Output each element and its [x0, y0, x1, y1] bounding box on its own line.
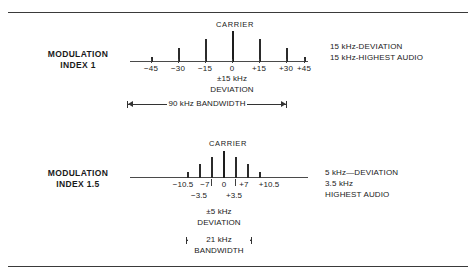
- panel2-stem-minus7: [199, 164, 201, 178]
- panel2-bandwidth-label-line2: BANDWIDTH: [180, 246, 258, 255]
- panel1-axis-tick: [304, 59, 305, 63]
- bottom-rule: [8, 266, 468, 267]
- panel2-stem-plus10-5: [259, 172, 261, 178]
- panel2-stem-carrier: [223, 151, 225, 178]
- panel1-deviation-label-line2: DEVIATION: [192, 85, 272, 94]
- panel2-spectrum: [130, 150, 308, 178]
- panel1-axis-tick: [178, 59, 179, 63]
- panel2-stem-minus10-5: [187, 172, 189, 178]
- panel1-row-label-line2: INDEX 1: [34, 60, 122, 70]
- panel1-axis-tick: [286, 59, 287, 63]
- panel2-stem-plus7: [247, 164, 249, 178]
- panel1-bandwidth-label: 90 kHz BANDWIDTH: [167, 99, 247, 108]
- panel1-note-0: 15 kHz-DEVIATION: [330, 42, 403, 51]
- fm-spectrum-figure: MODULATION INDEX 1 CARRIER −45 −30 −15 0…: [0, 0, 476, 280]
- panel1-spectrum: [130, 30, 308, 62]
- panel2-deviation-label-line2: DEVIATION: [180, 218, 258, 227]
- panel2-inner-tick-left: [211, 179, 212, 186]
- panel2-note-2: HIGHEST AUDIO: [325, 190, 389, 199]
- panel1-stem-carrier: [232, 31, 234, 62]
- panel2-inner-tick-label-1: +3.5: [216, 191, 252, 200]
- panel1-axis-tick: [151, 59, 152, 63]
- panel2-inner-tick-right: [235, 179, 236, 186]
- panel1-axis-line: [130, 61, 308, 62]
- panel1-row-label-line1: MODULATION: [34, 49, 122, 59]
- panel1-axis-tick: [205, 59, 206, 63]
- panel1-axis-tick: [232, 59, 233, 63]
- panel2-stem-plus3-5: [235, 157, 237, 178]
- panel1-deviation-label-line1: ±15 kHz: [192, 74, 272, 83]
- panel2-note-0: 5 kHz—DEVIATION: [325, 168, 398, 177]
- panel2-deviation-label-line1: ±5 kHz: [180, 207, 258, 216]
- panel1-carrier-label: CARRIER: [195, 20, 275, 29]
- top-rule: [8, 12, 468, 13]
- panel2-inner-tick-label-0: −3.5: [181, 191, 217, 200]
- panel2-bandwidth-label-line1: 21 kHz: [188, 235, 250, 244]
- panel1-note-1: 15 kHz-HIGHEST AUDIO: [330, 53, 423, 62]
- panel2-row-label-line2: INDEX 1.5: [34, 179, 122, 189]
- panel2-row-label-line1: MODULATION: [34, 168, 122, 178]
- panel2-axis-line: [130, 177, 308, 178]
- panel2-carrier-label: CARRIER: [188, 139, 268, 148]
- panel1-tick-label-6: +45: [284, 64, 324, 73]
- panel2-stem-minus3-5: [211, 157, 213, 178]
- panel1-axis-tick: [259, 59, 260, 63]
- panel2-note-1: 3.5 kHz: [325, 179, 353, 188]
- panel2-tick-label-4: +10.5: [253, 180, 285, 189]
